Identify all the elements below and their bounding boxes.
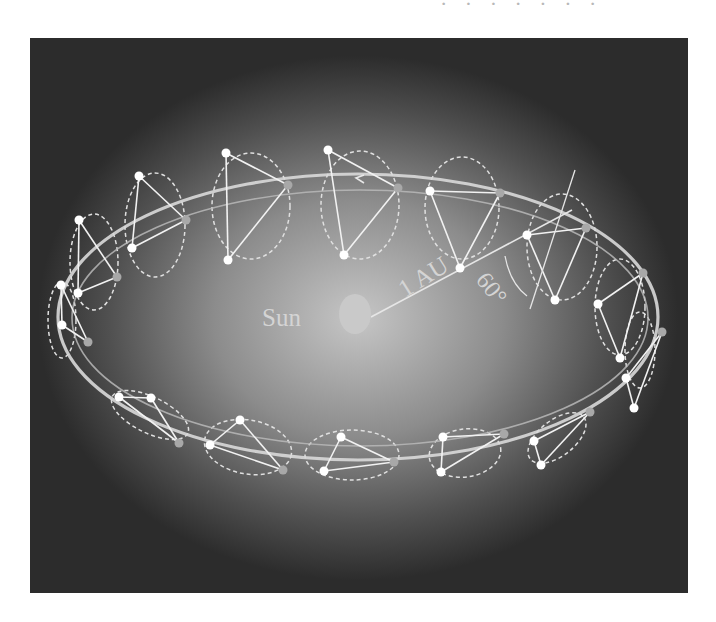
cropped-header-text: · · · · · · ·: [440, 0, 602, 17]
spacecraft-node-far: [175, 439, 184, 448]
spacecraft-node: [224, 256, 233, 265]
spacecraft-node-far: [113, 273, 122, 282]
spacecraft-node-far: [586, 408, 595, 417]
spacecraft-node: [523, 231, 532, 240]
spacecraft-node-far: [182, 216, 191, 225]
spacecraft-node: [75, 216, 84, 225]
spacecraft-node: [426, 187, 435, 196]
spacecraft-node: [206, 441, 215, 450]
spacecraft-node: [320, 467, 329, 476]
spacecraft-node: [616, 354, 625, 363]
spacecraft-node-far: [496, 189, 505, 198]
spacecraft-node: [128, 244, 137, 253]
spacecraft-node: [135, 172, 144, 181]
spacecraft-node: [437, 468, 446, 477]
spacecraft-node-far: [390, 458, 399, 467]
sun-disc: [339, 294, 371, 334]
spacecraft-node: [337, 433, 346, 442]
spacecraft-node: [222, 149, 231, 158]
spacecraft-node: [340, 251, 349, 260]
spacecraft-node: [456, 264, 465, 273]
laser-arm: [119, 397, 151, 398]
spacecraft-node: [58, 321, 67, 330]
sun-label: Sun: [262, 304, 301, 331]
spacecraft-node: [57, 281, 66, 290]
spacecraft-node-far: [500, 430, 509, 439]
spacecraft-node: [537, 461, 546, 470]
spacecraft-node: [530, 437, 539, 446]
spacecraft-node-far: [284, 181, 293, 190]
laser-arm: [78, 220, 79, 293]
spacecraft-node-far: [582, 224, 591, 233]
laser-arm: [61, 285, 62, 325]
spacecraft-node: [622, 374, 631, 383]
spacecraft-node-far: [84, 338, 93, 347]
spacecraft-node: [630, 404, 639, 413]
spacecraft-node-far: [639, 269, 648, 278]
spacecraft-node-far: [394, 184, 403, 193]
spacecraft-node-far: [658, 328, 667, 337]
spacecraft-node: [551, 296, 560, 305]
spacecraft-node-far: [279, 466, 288, 475]
spacecraft-node: [147, 394, 156, 403]
spacecraft-node: [236, 416, 245, 425]
spacecraft-node: [324, 146, 333, 155]
orbit-diagram-canvas: Sun 1 AU 60°: [30, 38, 688, 593]
spacecraft-node: [594, 300, 603, 309]
spacecraft-node: [115, 393, 124, 402]
lisa-orbit-figure: Sun 1 AU 60°: [30, 38, 688, 593]
spacecraft-node: [74, 289, 83, 298]
spacecraft-node: [439, 433, 448, 442]
